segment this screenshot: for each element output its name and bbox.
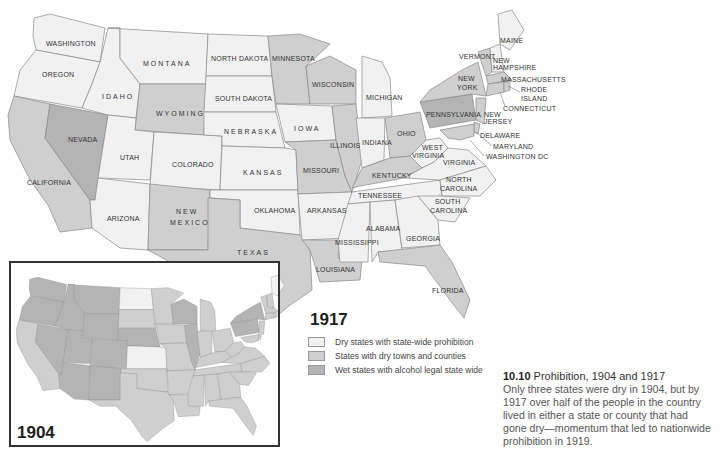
label-iowa: IOWA	[294, 125, 320, 132]
state-maryland	[440, 124, 474, 140]
state-new-mexico	[148, 184, 210, 250]
label-new-york-2: YORK	[457, 84, 478, 91]
label-alabama: ALABAMA	[366, 225, 401, 232]
legend-item-wet: Wet states with alcohol legal state wide	[308, 363, 483, 377]
label-rhode-island-2: ISLAND	[521, 95, 548, 102]
label-mississippi: MISSISSIPPI	[335, 239, 379, 246]
label-california: CALIFORNIA	[27, 179, 71, 186]
label-south-dakota: SOUTH DAKOTA	[215, 95, 272, 102]
map-legend: Dry states with state-wide prohibition S…	[308, 335, 483, 377]
legend-item-local-option: States with dry towns and counties	[308, 349, 483, 363]
label-ohio: OHIO	[397, 130, 416, 137]
label-indiana: INDIANA	[362, 139, 392, 146]
label-vermont: VERMONT	[459, 53, 496, 60]
label-rhode-island-1: RHODE	[521, 86, 547, 93]
label-arizona: ARIZONA	[107, 215, 140, 222]
figure-caption-title: 10.10 Prohibition, 1904 and 1917	[503, 370, 713, 383]
label-massachusetts: MASSACHUSETTS	[501, 76, 566, 83]
label-connecticut: CONNECTICUT	[503, 105, 557, 112]
label-kentucky: KENTUCKY	[372, 172, 412, 179]
label-washington-dc: WASHINGTON DC	[486, 153, 549, 160]
label-tennessee: TENNESSEE	[358, 192, 402, 199]
label-oregon: OREGON	[42, 71, 74, 78]
figure-caption: 10.10 Prohibition, 1904 and 1917 Only th…	[503, 370, 713, 448]
label-louisiana: LOUISIANA	[316, 266, 355, 273]
legend-swatch-local-option	[308, 351, 325, 361]
inset-frame-1904	[9, 261, 280, 447]
label-washington: WASHINGTON	[46, 40, 96, 47]
label-arkansas: ARKANSAS	[307, 207, 347, 214]
label-florida: FLORIDA	[432, 287, 464, 294]
label-colorado: COLORADO	[172, 161, 214, 168]
label-maryland: MARYLAND	[493, 143, 533, 150]
legend-swatch-wet	[308, 365, 325, 375]
label-minnesota: MINNESOTA	[272, 55, 315, 62]
label-missouri: MISSOURI	[303, 167, 339, 174]
label-north-carolina-2: CAROLINA	[440, 185, 478, 192]
label-new-jersey-1: NEW	[484, 111, 501, 118]
legend-label-dry: Dry states with state-wide prohibition	[335, 337, 473, 347]
label-new-mexico-1: NEW	[176, 208, 198, 215]
legend-item-dry: Dry states with state-wide prohibition	[308, 335, 483, 349]
main-map-year-label: 1917	[310, 310, 348, 330]
state-rhode-island	[504, 82, 510, 92]
state-arizona	[90, 178, 150, 250]
label-idaho: IDAHO	[102, 93, 134, 100]
label-oklahoma: OKLAHOMA	[254, 207, 295, 214]
label-maine: MAINE	[500, 37, 523, 44]
state-florida	[378, 245, 470, 318]
legend-swatch-dry	[308, 337, 325, 347]
label-delaware: DELAWARE	[480, 132, 520, 139]
state-michigan	[362, 56, 392, 118]
inset-year-label: 1904	[17, 423, 55, 443]
legend-label-local-option: States with dry towns and counties	[335, 351, 466, 361]
label-kansas: KANSAS	[243, 169, 283, 176]
label-west-virginia-1: WEST	[422, 144, 444, 151]
figure-caption-text: Only three states were dry in 1904, but …	[503, 383, 713, 448]
label-illinois: ILLINOIS	[330, 142, 361, 149]
label-north-carolina-1: NORTH	[446, 176, 472, 183]
label-utah: UTAH	[120, 154, 139, 161]
state-wisconsin	[306, 56, 356, 104]
state-new-york	[420, 62, 486, 102]
label-texas: TEXAS	[237, 249, 270, 256]
label-nebraska: NEBRASKA	[224, 128, 278, 135]
label-wisconsin: WISCONSIN	[312, 81, 354, 88]
label-montana: MONTANA	[143, 60, 191, 67]
state-iowa	[276, 104, 336, 142]
label-wyoming: WYOMING	[156, 110, 205, 117]
figure-title: Prohibition, 1904 and 1917	[534, 370, 666, 382]
state-connecticut	[486, 82, 504, 96]
label-new-hampshire-1: NEW	[493, 57, 510, 64]
label-new-hampshire-2: HAMPSHIRE	[493, 64, 537, 71]
label-west-virginia-2: VIRGINIA	[412, 152, 444, 159]
label-south-carolina-1: SOUTH	[435, 198, 461, 205]
label-new-york-1: NEW	[458, 75, 475, 82]
label-new-mexico-2: MEXICO	[170, 219, 210, 226]
label-georgia: GEORGIA	[406, 235, 440, 242]
label-pennsylvania: PENNSYLVANIA	[426, 111, 481, 118]
label-south-carolina-2: CAROLINA	[430, 207, 468, 214]
state-kansas	[220, 146, 298, 190]
label-michigan: MICHIGAN	[366, 94, 403, 101]
legend-label-wet: Wet states with alcohol legal state wide	[335, 365, 483, 375]
state-south-dakota	[204, 76, 276, 112]
label-nevada: NEVADA	[68, 136, 98, 143]
label-new-jersey-2: JERSEY	[484, 118, 513, 125]
label-north-dakota: NORTH DAKOTA	[211, 55, 268, 62]
label-virginia: VIRGINIA	[443, 159, 475, 166]
figure-number: 10.10	[503, 370, 531, 382]
state-maine	[498, 10, 524, 50]
